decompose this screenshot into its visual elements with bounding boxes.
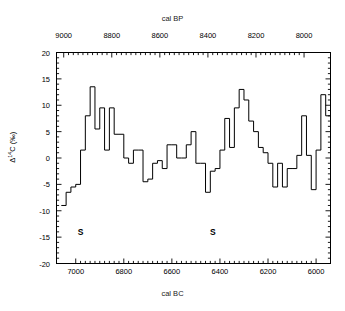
axis-ticks [57,53,331,264]
chart-figure: cal BP cal BC Δ14C (‰) 90008800860084008… [0,0,345,311]
plot-canvas [0,0,345,311]
plot-frame [57,53,331,264]
data-series-line [61,87,330,206]
